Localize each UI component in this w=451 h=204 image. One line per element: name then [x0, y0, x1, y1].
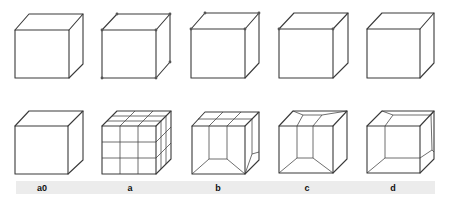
cube-top-a0 — [15, 14, 83, 78]
cube-top-c — [278, 13, 348, 78]
cube-top-b — [190, 12, 261, 78]
cube-bottom-d — [367, 111, 434, 173]
label-b: b — [215, 183, 221, 193]
vertex-marker — [101, 77, 104, 80]
label-d: d — [390, 183, 396, 193]
cube-top-a — [101, 13, 172, 80]
label-a0: a0 — [37, 183, 47, 193]
vertex-marker — [204, 12, 207, 15]
vertex-marker — [190, 28, 193, 31]
vertex-marker — [332, 28, 335, 31]
vertex-marker — [169, 61, 172, 64]
vertex-marker — [258, 12, 261, 15]
vertex-marker — [278, 28, 281, 31]
vertex-marker — [155, 77, 158, 80]
vertex-marker — [116, 13, 119, 16]
cube-bottom-b — [192, 112, 259, 174]
cube-subdivision-figure: a0 a b c d — [0, 0, 451, 204]
vertex-marker — [101, 29, 104, 32]
vertex-marker — [244, 28, 247, 31]
vertex-marker — [155, 29, 158, 32]
vertex-marker — [169, 13, 172, 16]
cube-bottom-a — [102, 111, 171, 174]
cube-bottom-a0 — [15, 111, 83, 174]
label-band — [16, 181, 435, 194]
cube-bottom-c — [279, 111, 347, 173]
label-c: c — [304, 183, 309, 193]
cube-top-d — [367, 13, 434, 78]
